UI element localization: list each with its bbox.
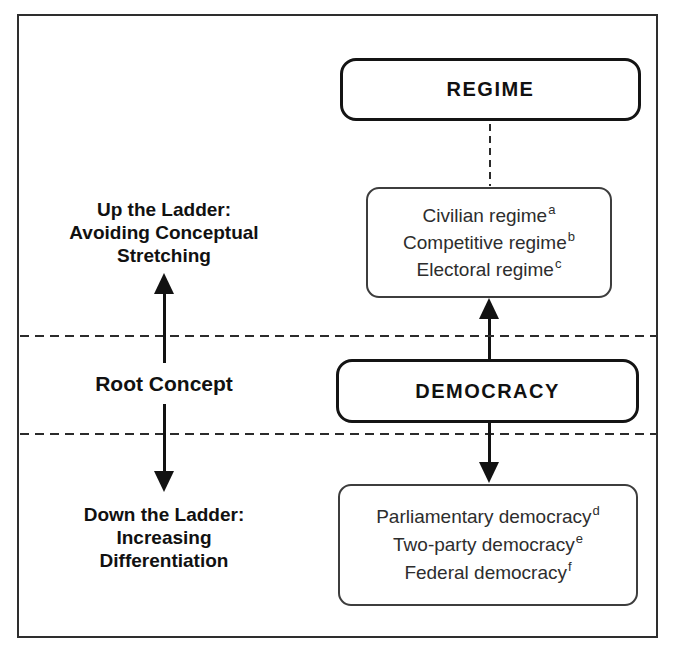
variant-line: Civilian regimea <box>423 202 556 229</box>
variant-line: Parliamentary democracyd <box>376 503 600 531</box>
variant-superscript: e <box>576 531 583 546</box>
up-ladder-line: Avoiding Conceptual <box>29 221 299 244</box>
down-arrow-shaft-right <box>488 423 491 463</box>
variant-superscript: c <box>555 256 562 271</box>
down-arrow-head-left <box>154 471 174 492</box>
down-ladder-label: Down the Ladder: Increasing Differentiat… <box>29 503 299 572</box>
variant-superscript: a <box>548 202 555 217</box>
variant-text: Parliamentary democracy <box>376 506 591 527</box>
democracy-label: DEMOCRACY <box>415 380 560 403</box>
root-concept-label: Root Concept <box>29 372 299 395</box>
regime-dashed-connector <box>489 124 491 186</box>
variant-text: Electoral regime <box>417 259 554 280</box>
up-ladder-label: Up the Ladder: Avoiding Conceptual Stret… <box>29 198 299 267</box>
regime-box: REGIME <box>340 58 641 121</box>
abstraction-divider-lower <box>20 433 656 435</box>
down-ladder-line: Increasing <box>29 526 299 549</box>
upper-variants-box: Civilian regimea Competitive regimeb Ele… <box>366 187 612 298</box>
variant-line: Federal democracyf <box>404 559 571 587</box>
up-ladder-line: Stretching <box>29 244 299 267</box>
down-ladder-line: Differentiation <box>29 549 299 572</box>
regime-label: REGIME <box>447 78 535 101</box>
figure-canvas: REGIME Civilian regimea Competitive regi… <box>0 0 677 658</box>
variant-text: Competitive regime <box>403 232 567 253</box>
up-ladder-line: Up the Ladder: <box>29 198 299 221</box>
variant-text: Civilian regime <box>423 205 548 226</box>
variant-superscript: f <box>568 559 572 574</box>
variant-superscript: d <box>593 503 600 518</box>
democracy-box: DEMOCRACY <box>336 359 639 423</box>
variant-text: Federal democracy <box>404 562 567 583</box>
down-arrow-shaft-left <box>163 404 166 472</box>
up-arrow-shaft-right <box>488 316 491 361</box>
variant-text: Two-party democracy <box>393 534 575 555</box>
variant-superscript: b <box>568 229 575 244</box>
down-ladder-line: Down the Ladder: <box>29 503 299 526</box>
up-arrow-head-left <box>154 273 174 294</box>
abstraction-divider-upper <box>20 335 656 337</box>
variant-line: Competitive regimeb <box>403 229 575 256</box>
up-arrow-shaft-left <box>163 292 166 363</box>
lower-variants-box: Parliamentary democracyd Two-party democ… <box>338 484 638 606</box>
down-arrow-head-right <box>479 462 499 483</box>
variant-line: Two-party democracye <box>393 531 583 559</box>
variant-line: Electoral regimec <box>417 256 562 283</box>
